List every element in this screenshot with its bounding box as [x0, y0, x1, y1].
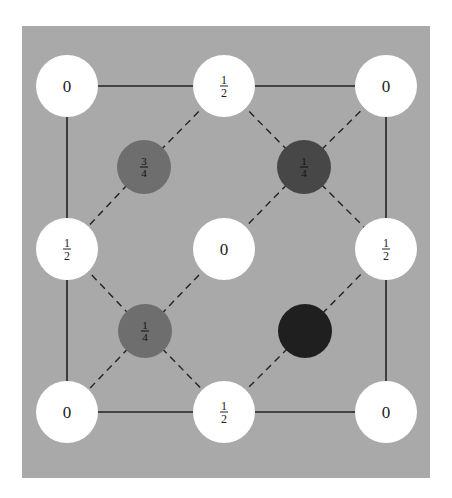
- atom-label: 0: [382, 403, 391, 422]
- fraction-denominator: 2: [64, 249, 70, 263]
- fraction-numerator: 1: [142, 319, 148, 331]
- fraction-numerator: 1: [301, 155, 307, 167]
- fraction-denominator: 2: [221, 86, 227, 100]
- atom-center: 0: [193, 218, 255, 280]
- atom-interior-bottom-left: 14: [118, 304, 172, 358]
- fraction-numerator: 1: [64, 236, 70, 250]
- atom-corner-bottom-right: 0: [355, 381, 417, 443]
- fraction-denominator: 4: [142, 331, 148, 343]
- fraction-numerator: 1: [383, 236, 389, 250]
- crystal-diagram: 341414 0120120120120: [0, 0, 452, 498]
- atom-label: 0: [63, 77, 72, 96]
- atom-label: 0: [382, 77, 391, 96]
- atom-edge-right: 12: [355, 218, 417, 280]
- fraction-numerator: 3: [141, 155, 147, 167]
- atom-corner-top-left: 0: [36, 55, 98, 117]
- atom-corner-bottom-left: 0: [36, 381, 98, 443]
- fraction-denominator: 4: [141, 167, 147, 179]
- atom-edge-top: 12: [193, 55, 255, 117]
- fraction-denominator: 4: [301, 167, 307, 179]
- atom-interior-top-right: 14: [277, 140, 331, 194]
- atom-interior-top-left: 34: [117, 140, 171, 194]
- atom-edge-bottom: 12: [193, 381, 255, 443]
- dark-atom-circle: [278, 304, 332, 358]
- fraction-numerator: 1: [221, 73, 227, 87]
- diagram-stage: 341414 0120120120120: [0, 0, 452, 498]
- fraction-denominator: 2: [221, 412, 227, 426]
- atom-edge-left: 12: [36, 218, 98, 280]
- fraction-numerator: 1: [221, 399, 227, 413]
- atom-corner-top-right: 0: [355, 55, 417, 117]
- atom-label: 0: [220, 240, 229, 259]
- fraction-denominator: 2: [383, 249, 389, 263]
- atom-label: 0: [63, 403, 72, 422]
- atom-interior-bottom-right: [278, 304, 332, 358]
